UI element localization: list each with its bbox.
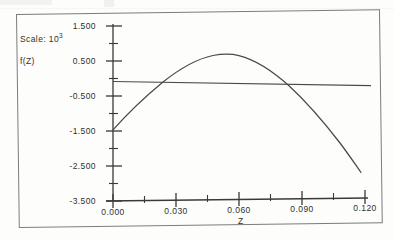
- x-tick-label: 0.090: [279, 204, 325, 214]
- fz-curve: [113, 54, 361, 172]
- scale-annotation-base: 10: [49, 34, 59, 44]
- fz-annotation: f(Z): [20, 56, 35, 66]
- x-tick-label: 0.000: [90, 207, 136, 217]
- y-tick-label: 1.500: [50, 21, 96, 31]
- x-axis: [106, 198, 368, 201]
- x-tick-label: 0.120: [342, 203, 388, 213]
- x-axis-title: Z: [238, 216, 244, 226]
- y-tick-label: -1.500: [50, 126, 96, 136]
- y-tick-label: -0.500: [50, 91, 96, 101]
- y-tick-label: -3.500: [50, 196, 96, 206]
- x-tick-label: 0.030: [153, 206, 199, 216]
- scale-annotation: Scale: 103: [20, 32, 63, 44]
- y-tick-label: -2.500: [50, 161, 96, 171]
- reference-line: [113, 82, 371, 86]
- y-tick-label: 0.500: [50, 56, 96, 66]
- scale-annotation-exponent: 3: [59, 32, 63, 39]
- x-tick-label: 0.060: [216, 205, 262, 215]
- scanned-page-background: 1.500 0.500 -0.500 -1.500 -2.500 -3.500 …: [0, 0, 394, 239]
- scale-annotation-label: Scale:: [20, 34, 46, 44]
